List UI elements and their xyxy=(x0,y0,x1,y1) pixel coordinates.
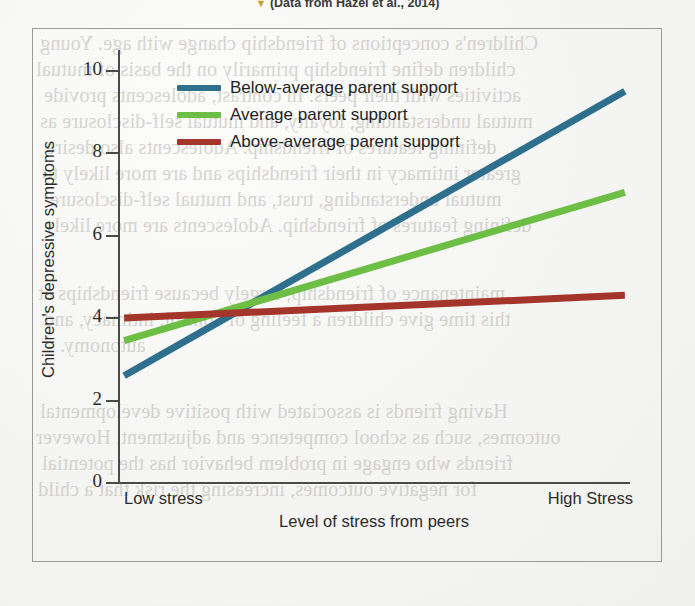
legend-item: Below-average parent support xyxy=(177,78,460,98)
legend-item: Average parent support xyxy=(177,105,460,125)
legend-color-swatch xyxy=(177,139,221,145)
legend-label: Average parent support xyxy=(230,105,407,125)
series-line xyxy=(124,295,625,318)
legend-color-swatch xyxy=(177,112,221,118)
legend-item: Above-average parent support xyxy=(177,132,460,152)
legend-label: Below-average parent support xyxy=(230,78,458,98)
chart-legend: Below-average parent supportAverage pare… xyxy=(177,78,460,152)
series-line xyxy=(124,192,625,340)
legend-label: Above-average parent support xyxy=(230,132,460,152)
legend-color-swatch xyxy=(177,85,221,91)
